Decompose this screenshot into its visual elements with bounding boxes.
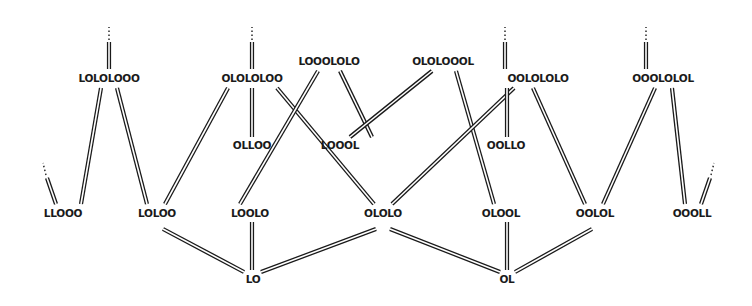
edge	[603, 88, 655, 204]
node-oollo: OOLLO	[487, 140, 525, 151]
edge	[163, 229, 244, 272]
node-loool: LOOOL	[321, 140, 359, 151]
node-loloo: LOLOO	[138, 208, 176, 219]
node-ololoool: OLOLOOOL	[412, 56, 474, 67]
edge	[261, 229, 376, 272]
node-olloo: OLLOO	[233, 140, 271, 151]
node-olololoo: OLOLOLOO	[221, 73, 282, 84]
edge	[672, 88, 685, 204]
node-looololo: LOOOLOLO	[298, 56, 359, 67]
node-ol: OL	[499, 274, 514, 285]
node-ololo: OLOLO	[364, 208, 402, 219]
lattice-diagram: LOLOLOOOOLOLOLOOLOOOLOLOOLOLOOOLOOLOLOLO…	[0, 0, 752, 306]
node-oooll: OOOLL	[673, 208, 712, 219]
node-ooololol: OOOLOLOL	[632, 73, 694, 84]
edge	[117, 88, 147, 204]
open-edge-oooll	[701, 178, 710, 204]
node-loolo: LOOLO	[231, 208, 269, 219]
node-oolol: OOLOL	[576, 208, 614, 219]
node-llooo: LLOOO	[44, 208, 82, 219]
edge	[165, 88, 228, 204]
edge	[350, 71, 432, 137]
node-olool: OLOOL	[482, 208, 520, 219]
node-oolololo: OOLOLOLO	[507, 73, 568, 84]
edge	[515, 229, 592, 272]
ellipsis-dots-icon	[711, 163, 714, 175]
ellipsis-dots-icon	[43, 163, 46, 175]
node-lololooo: LOLOLOOO	[78, 73, 139, 84]
edge	[340, 71, 372, 137]
open-edge-llooo	[47, 178, 56, 204]
edge	[390, 229, 500, 272]
node-lo: LO	[246, 274, 261, 285]
edge	[81, 88, 101, 204]
edge	[533, 88, 585, 204]
edges-layer	[0, 0, 752, 306]
